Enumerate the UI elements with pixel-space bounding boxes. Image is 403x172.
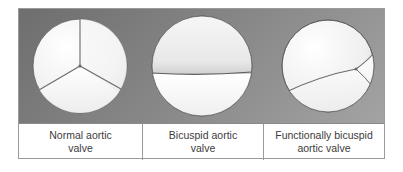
label-row: Normal aortic valve Bicuspid aortic valv…	[19, 123, 384, 160]
valve-illustration-band	[19, 9, 384, 123]
tricuspid-valve-icon	[33, 17, 129, 119]
label-line: Functionally bicuspid	[275, 129, 372, 142]
label-line: aortic valve	[275, 142, 372, 155]
valve-illustrations	[19, 9, 384, 123]
label-bicuspid-aortic-valve: Bicuspid aortic valve	[142, 124, 263, 160]
aortic-valve-figure: Normal aortic valve Bicuspid aortic valv…	[18, 8, 385, 159]
label-line: valve	[49, 142, 111, 155]
functionally-bicuspid-valve-icon	[282, 20, 379, 119]
label-normal-aortic-valve: Normal aortic valve	[19, 124, 142, 160]
label-line: Bicuspid aortic	[169, 129, 237, 142]
label-functionally-bicuspid-aortic-valve: Functionally bicuspid aortic valve	[263, 124, 384, 160]
label-line: Normal aortic	[49, 129, 111, 142]
bicuspid-valve-icon	[149, 14, 259, 123]
label-line: valve	[169, 142, 237, 155]
